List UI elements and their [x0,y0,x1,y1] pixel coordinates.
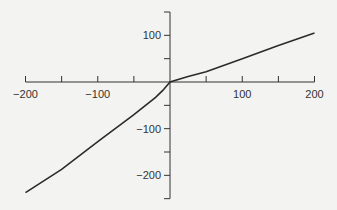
y-tick-label: −200 [136,169,161,181]
x-tick-label: −200 [13,88,38,100]
y-tick-label: −100 [136,123,161,135]
x-tick-label: −100 [85,88,110,100]
chart: −200−100100200100−100−200 [0,0,337,210]
y-tick-label: 100 [143,29,161,41]
x-tick-label: 200 [305,88,323,100]
x-tick-label: 100 [233,88,251,100]
axes [26,12,315,199]
